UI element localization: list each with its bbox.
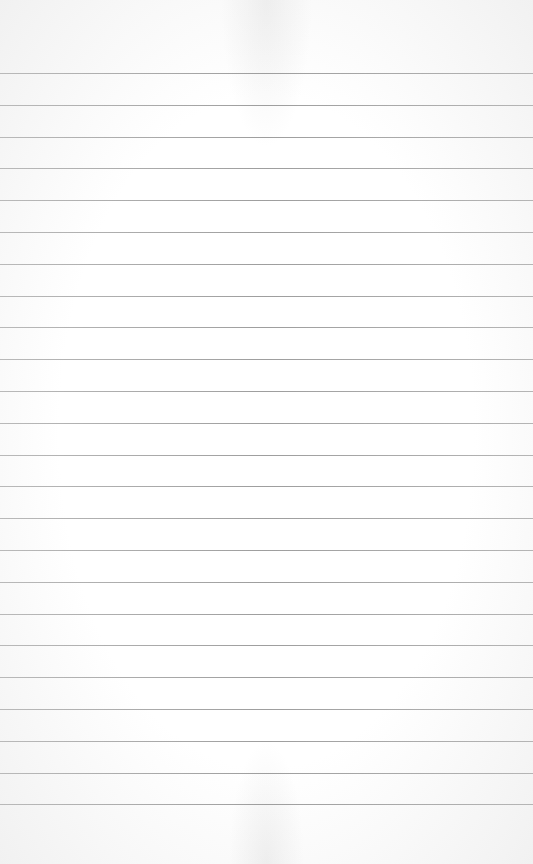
ruled-line xyxy=(0,773,533,774)
ruled-line xyxy=(0,518,533,519)
ruled-line xyxy=(0,677,533,678)
ruled-line xyxy=(0,804,533,805)
ruled-line xyxy=(0,741,533,742)
ruled-line xyxy=(0,550,533,551)
ruled-line xyxy=(0,327,533,328)
ruled-line xyxy=(0,486,533,487)
ruled-line xyxy=(0,709,533,710)
ruled-line xyxy=(0,645,533,646)
ruled-line xyxy=(0,232,533,233)
ruled-line xyxy=(0,105,533,106)
ruled-line xyxy=(0,582,533,583)
ruled-line xyxy=(0,137,533,138)
ruled-line xyxy=(0,391,533,392)
ruled-line xyxy=(0,359,533,360)
ruled-line xyxy=(0,423,533,424)
ruled-line xyxy=(0,296,533,297)
lined-paper-sheet xyxy=(0,0,533,864)
ruled-line xyxy=(0,264,533,265)
paper-texture xyxy=(0,0,533,864)
ruled-line xyxy=(0,200,533,201)
ruled-line xyxy=(0,73,533,74)
ruled-line xyxy=(0,168,533,169)
ruled-line xyxy=(0,614,533,615)
ruled-line xyxy=(0,455,533,456)
